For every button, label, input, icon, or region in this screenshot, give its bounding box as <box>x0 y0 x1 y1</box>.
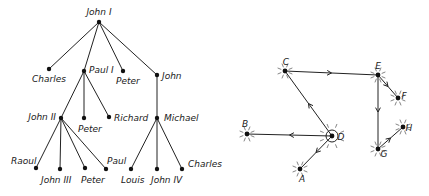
ray-icon <box>335 124 337 128</box>
tree-node-label: Peter <box>78 124 103 134</box>
graph-node-A: A <box>293 162 308 184</box>
ray-icon <box>400 102 402 106</box>
graph-node-dot <box>245 132 250 137</box>
ray-icon <box>304 171 308 173</box>
graph-node-dot <box>298 167 303 172</box>
tree-node-label: Peter <box>81 175 106 185</box>
ray-icon <box>395 102 397 106</box>
ray-icon <box>400 131 402 135</box>
tree-node-label: Peter <box>116 76 141 86</box>
ray-icon <box>249 127 251 131</box>
ray-icon <box>382 77 386 79</box>
graph-node-B: B <box>240 119 255 141</box>
ray-icon <box>251 136 255 138</box>
ray-icon <box>278 68 282 70</box>
diagram-canvas: John ICharlesPaul IPeterJohnJohn IIPeter… <box>0 0 429 196</box>
tree-node-label: John IV <box>149 175 183 185</box>
directed-graph: CEFDBAGH <box>240 57 413 184</box>
graph-node-dot <box>396 96 401 101</box>
tree-node-paul <box>104 167 108 171</box>
graph-node-G: G <box>371 142 388 159</box>
ray-icon <box>327 124 329 128</box>
graph-node-C: C <box>278 57 293 78</box>
tree-edge <box>60 118 61 169</box>
ray-icon <box>371 151 375 153</box>
ray-icon <box>335 144 337 148</box>
ray-icon <box>382 72 386 74</box>
tree-node-label: Raoul <box>11 156 37 166</box>
tree-node-label: Charles <box>188 159 222 169</box>
tree-node-label: Paul I <box>89 65 114 75</box>
ray-icon <box>382 146 386 148</box>
graph-node-label: H <box>406 123 413 133</box>
ray-icon <box>293 166 297 168</box>
graph-node-dot <box>330 134 335 139</box>
graph-node-label: D <box>338 132 345 142</box>
ray-icon <box>396 129 400 131</box>
tree-node-label: Louis <box>121 175 145 185</box>
ray-icon <box>375 79 377 83</box>
tree-node-label: John I <box>84 7 111 17</box>
tree-edge <box>99 22 123 71</box>
family-tree: John ICharlesPaul IPeterJohnJohn IIPeter… <box>11 7 222 185</box>
graph-node-label: E <box>375 61 381 71</box>
ray-icon <box>375 142 377 146</box>
tree-node-peter2 <box>82 116 86 120</box>
ray-icon <box>400 120 402 124</box>
tree-edge <box>157 118 182 169</box>
graph-node-H: H <box>396 120 413 135</box>
graph-node-label: F <box>401 91 407 101</box>
ray-icon <box>282 75 284 79</box>
ray-icon <box>289 73 293 75</box>
ray-icon <box>289 68 293 70</box>
ray-icon <box>380 79 382 83</box>
tree-node-charles2 <box>180 167 184 171</box>
ray-icon <box>278 73 282 75</box>
tree-node-peter3 <box>83 166 87 170</box>
graph-node-label: B <box>242 119 248 129</box>
ray-icon <box>396 124 400 126</box>
graph-node-dot <box>376 73 381 78</box>
tree-node-label: Michael <box>164 113 199 123</box>
ray-icon <box>320 139 324 141</box>
ray-icon <box>244 138 246 142</box>
tree-node-label: Richard <box>114 113 149 123</box>
tree-node-peter1 <box>121 69 125 73</box>
tree-node-john4 <box>155 167 159 171</box>
tree-node-paul1 <box>82 69 86 73</box>
ray-icon <box>327 144 329 148</box>
ray-icon <box>320 131 324 133</box>
tree-node-raoul <box>34 166 38 170</box>
ray-icon <box>251 131 255 133</box>
tree-node-label: Charles <box>32 74 66 84</box>
tree-node-louis <box>129 167 133 171</box>
ray-icon <box>249 138 251 142</box>
ray-icon <box>304 166 308 168</box>
tree-node-richard <box>107 115 111 119</box>
tree-edge <box>36 118 61 168</box>
tree-node-john3 <box>58 167 62 171</box>
graph-node-label: C <box>283 57 290 67</box>
tree-node-label: Paul <box>107 156 127 166</box>
graph-node-label: A <box>298 174 305 184</box>
ray-icon <box>371 72 375 74</box>
tree-node-john <box>155 73 159 77</box>
graph-node-label: G <box>381 149 388 159</box>
ray-icon <box>297 162 299 166</box>
ray-icon <box>240 136 244 138</box>
ray-icon <box>293 171 297 173</box>
tree-node-charles1 <box>47 67 51 71</box>
ray-icon <box>302 162 304 166</box>
ray-icon <box>371 146 375 148</box>
tree-node-label: John <box>160 71 182 81</box>
graph-node-dot <box>283 69 288 74</box>
ray-icon <box>375 153 377 157</box>
tree-node-label: John II <box>26 112 56 122</box>
ray-icon <box>395 91 397 95</box>
ray-icon <box>240 131 244 133</box>
ray-icon <box>380 142 382 146</box>
tree-edge <box>131 118 157 169</box>
ray-icon <box>391 100 395 102</box>
tree-node-john1 <box>97 20 101 24</box>
tree-node-michael <box>155 116 159 120</box>
